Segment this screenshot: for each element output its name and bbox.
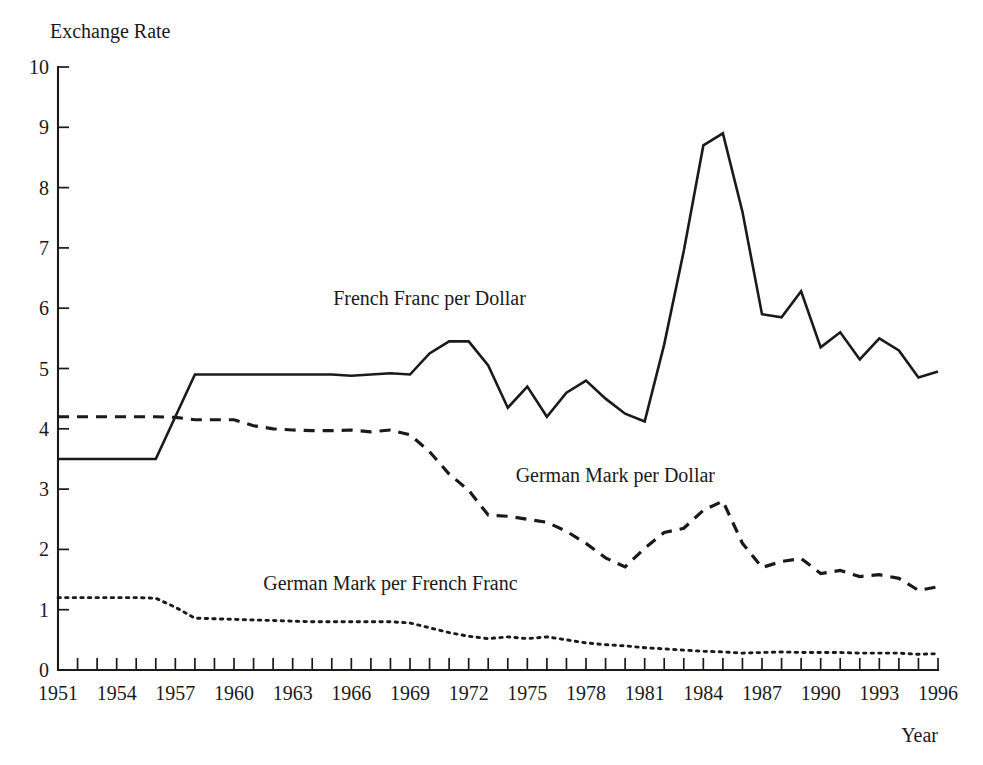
y-axis-title-group: Exchange Rate [50,20,171,43]
x-tick-label: 1981 [625,682,665,704]
x-tick-label: 1987 [742,682,782,704]
x-tick-label: 1990 [801,682,841,704]
x-tick-label: 1963 [273,682,313,704]
x-tick-label: 1984 [683,682,723,704]
y-tick-label: 7 [39,237,49,259]
y-tick-label: 9 [39,116,49,138]
x-tick-label: 1966 [331,682,371,704]
series-label: German Mark per French Franc [263,572,517,595]
y-axis-tick-labels: 012345678910 [29,56,49,681]
x-tick-label: 1954 [97,682,137,704]
x-tick-label: 1975 [507,682,547,704]
y-tick-label: 8 [39,177,49,199]
exchange-rate-chart: Exchange Rate Year 012345678910 19511954… [0,0,983,765]
x-tick-label: 1996 [918,682,958,704]
series-annotations: French Franc per DollarGerman Mark per D… [263,287,715,595]
y-tick-label: 6 [39,297,49,319]
x-tick-label: 1951 [38,682,78,704]
x-axis-tick-labels: 1951195419571960196319661969197219751978… [38,682,958,704]
y-tick-label: 2 [39,538,49,560]
x-tick-label: 1969 [390,682,430,704]
x-tick-label: 1993 [859,682,899,704]
x-tick-label: 1972 [449,682,489,704]
series-line-dashed [58,417,938,591]
y-axis-ticks [58,67,69,670]
x-axis-ticks [58,658,938,670]
x-tick-label: 1978 [566,682,606,704]
x-tick-label: 1957 [155,682,195,704]
x-axis-title-group: Year [901,724,938,746]
y-tick-label: 5 [39,358,49,380]
series-label: French Franc per Dollar [333,287,526,310]
series-line-dotted [58,598,938,655]
y-axis-title: Exchange Rate [50,20,171,43]
y-tick-label: 0 [39,659,49,681]
y-tick-label: 4 [39,418,49,440]
y-tick-label: 1 [39,599,49,621]
x-tick-label: 1960 [214,682,254,704]
y-tick-label: 10 [29,56,49,78]
chart-canvas: Exchange Rate Year 012345678910 19511954… [0,0,983,765]
series-label: German Mark per Dollar [516,464,716,487]
x-axis-title: Year [901,724,938,746]
y-tick-label: 3 [39,478,49,500]
